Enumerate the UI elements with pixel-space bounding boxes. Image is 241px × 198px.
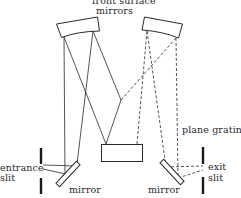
right-mirror-label: mirror [148, 185, 180, 195]
entrance-slit-label-line2: slit [0, 173, 15, 183]
left-mirror-label: mirror [69, 185, 101, 195]
left-front-surface-mirror [57, 17, 100, 38]
exit-slit-label-line2: slit [208, 173, 223, 183]
right-flat-mirror [160, 159, 184, 184]
plane-grating [102, 145, 143, 162]
plane-grating-label: plane grating [182, 125, 241, 135]
front-surface-mirrors-label-line2: mirrors [96, 6, 133, 16]
exit-slit-label-line1: exit [208, 162, 226, 172]
right-front-surface-mirror [142, 17, 183, 38]
